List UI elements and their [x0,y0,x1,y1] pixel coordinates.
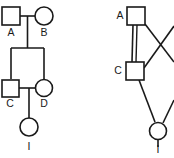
pedigree-node-d-circle[interactable] [36,80,53,97]
pedigree-node-i-circle[interactable] [20,118,38,136]
graph-edge-c-offscreen [144,26,174,68]
left-pedigree-panel: A B C D I [2,7,53,152]
diagram-svg: A B C D I A C [0,0,174,158]
graph-edge-a-offscreen [145,24,174,62]
pedigree-label-a: A [7,26,14,38]
pedigree-label-c: C [6,97,14,109]
graph-edge-a-c-right [136,25,137,62]
pedigree-label-i: I [28,140,31,152]
pedigree-node-c-square[interactable] [2,80,19,97]
graph-node-i-circle[interactable] [150,123,167,140]
pedigree-node-a-square[interactable] [2,7,20,25]
right-graph-panel: A C I [114,7,174,155]
graph-node-c-square[interactable] [126,62,144,80]
graph-edge-a-c-left [132,25,133,62]
pedigree-label-d: D [40,97,48,109]
graph-label-i: I [157,143,160,155]
diagram-canvas: A B C D I A C [0,0,174,158]
graph-edge-c-i [139,80,155,122]
graph-edge-i-offscreen [163,100,174,123]
graph-label-c: C [114,64,122,76]
graph-node-a-square[interactable] [127,7,145,25]
pedigree-node-b-circle[interactable] [35,7,53,25]
graph-label-a: A [116,9,123,21]
pedigree-label-b: B [40,26,47,38]
